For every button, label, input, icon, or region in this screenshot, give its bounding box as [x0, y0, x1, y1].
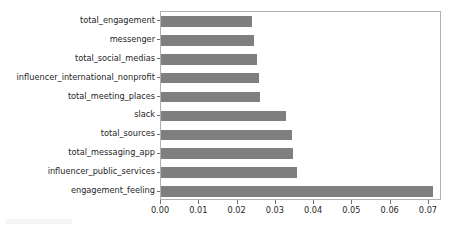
- bar: [161, 167, 297, 178]
- x-tick-label: 0.07: [419, 205, 437, 215]
- x-tick-label: 0.06: [381, 205, 399, 215]
- bar: [161, 130, 292, 141]
- y-axis-tick-labels: total_engagementmessengertotal_social_me…: [0, 11, 155, 200]
- y-tick-label: influencer_international_nonprofit: [0, 73, 155, 82]
- y-tick-mark: [157, 39, 161, 40]
- y-tick-mark: [157, 77, 161, 78]
- bar: [161, 92, 260, 103]
- x-axis-tick-labels: 0.000.010.020.030.040.050.060.07: [0, 200, 455, 230]
- y-tick-mark: [157, 96, 161, 97]
- x-tick-label: 0.04: [304, 205, 322, 215]
- y-tick-label: total_engagement: [0, 16, 155, 25]
- bar: [161, 111, 286, 122]
- x-tick-mark: [351, 200, 352, 204]
- x-tick-mark: [428, 200, 429, 204]
- x-tick-mark: [275, 200, 276, 204]
- y-tick-label: total_messaging_app: [0, 148, 155, 157]
- y-tick-mark: [157, 153, 161, 154]
- y-tick-label: slack: [0, 110, 155, 119]
- y-tick-label: influencer_public_services: [0, 167, 155, 176]
- page-edge-artifact: [6, 219, 72, 224]
- x-tick-label: 0.01: [189, 205, 207, 215]
- bar: [161, 73, 259, 84]
- x-tick-label: 0.05: [342, 205, 360, 215]
- y-tick-mark: [157, 58, 161, 59]
- y-tick-label: total_social_medias: [0, 54, 155, 63]
- x-tick-mark: [313, 200, 314, 204]
- bar: [161, 186, 433, 197]
- y-tick-mark: [157, 134, 161, 135]
- y-tick-mark: [157, 172, 161, 173]
- y-tick-mark: [157, 115, 161, 116]
- bar: [161, 16, 252, 27]
- x-tick-label: 0.03: [266, 205, 284, 215]
- bar: [161, 35, 254, 46]
- y-tick-label: engagement_feeling: [0, 186, 155, 195]
- x-tick-mark: [198, 200, 199, 204]
- x-tick-mark: [237, 200, 238, 204]
- plot-area: [160, 11, 441, 200]
- x-tick-mark: [390, 200, 391, 204]
- figure: total_engagementmessengertotal_social_me…: [0, 0, 455, 230]
- x-tick-mark: [160, 200, 161, 204]
- y-tick-label: total_meeting_places: [0, 92, 155, 101]
- bar-series: [161, 12, 440, 199]
- x-tick-label: 0.00: [151, 205, 169, 215]
- x-tick-label: 0.02: [227, 205, 245, 215]
- y-tick-mark: [157, 20, 161, 21]
- bar: [161, 54, 257, 65]
- y-tick-mark: [157, 191, 161, 192]
- bar: [161, 148, 293, 159]
- y-tick-label: messenger: [0, 35, 155, 44]
- y-tick-label: total_sources: [0, 129, 155, 138]
